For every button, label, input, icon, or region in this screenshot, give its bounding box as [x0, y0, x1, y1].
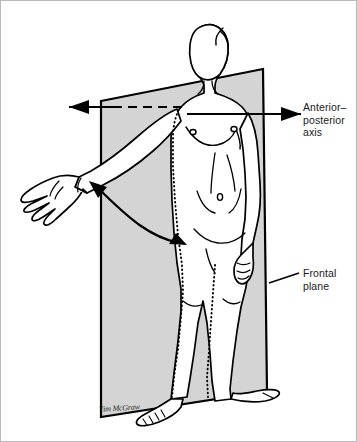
anatomy-figure: Anterior– posterior axis Frontal plane T… [0, 0, 357, 442]
figure-illustration [1, 1, 357, 442]
frontal-plane-leader-line [269, 273, 299, 283]
nipple-right [231, 126, 237, 131]
ap-axis-right-arrowhead [281, 107, 301, 121]
left-hand [21, 176, 87, 226]
label-anterior-posterior-axis: Anterior– posterior axis [303, 101, 357, 139]
ap-axis-left-arrowhead [69, 100, 89, 114]
label-frontal-plane: Frontal plane [303, 267, 357, 292]
navel [217, 194, 222, 201]
nipple-left [190, 129, 196, 134]
